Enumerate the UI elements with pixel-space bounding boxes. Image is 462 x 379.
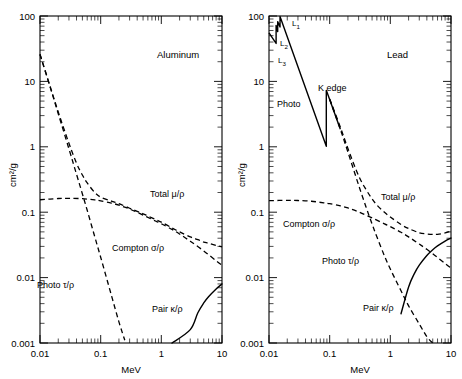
aluminum-photo-label: Photo τ/ρ — [37, 280, 74, 290]
lead-panel-title: Lead — [387, 49, 408, 60]
lead-compton-curve — [330, 99, 451, 235]
aluminum-y-ticklabel-100: 100 — [19, 11, 35, 22]
panel-aluminum: Aluminum Total μ/ρ Compton σ/ρ Photo τ/ρ… — [7, 11, 227, 376]
lead-x-ticklabel-10: 10 — [446, 348, 457, 359]
lead-k-edge-label: K edge — [318, 83, 347, 93]
aluminum-y-ticklabel-0.1: 0.1 — [22, 207, 35, 218]
aluminum-plot-frame — [40, 16, 222, 343]
aluminum-x-minor-ticks — [58, 16, 219, 343]
lead-y-ticklabel-10: 10 — [253, 76, 264, 87]
lead-y-ticklabel-0.001: 0.001 — [240, 338, 264, 349]
lead-x-axis-title: MeV — [350, 364, 370, 375]
lead-l3-edge-label: L3 — [278, 56, 286, 67]
aluminum-y-ticklabel-1: 1 — [30, 141, 35, 152]
aluminum-pair-label: Pair κ/ρ — [152, 304, 183, 314]
aluminum-y-major-ticks — [40, 16, 222, 343]
lead-y-ticklabel-0.1: 0.1 — [251, 207, 264, 218]
lead-x-ticklabel-0.1: 0.1 — [323, 348, 336, 359]
lead-y-ticklabel-100: 100 — [248, 11, 264, 22]
aluminum-pair-curve — [40, 54, 125, 340]
aluminum-y-ticklabel-0.01: 0.01 — [17, 272, 36, 283]
aluminum-x-ticklabel-10: 10 — [217, 348, 228, 359]
lead-x-ticklabel-0.01: 0.01 — [260, 348, 279, 359]
chart-canvas: Aluminum Total μ/ρ Compton σ/ρ Photo τ/ρ… — [0, 0, 462, 379]
aluminum-y-ticklabel-0.001: 0.001 — [11, 338, 35, 349]
attenuation-coefficient-figure: Aluminum Total μ/ρ Compton σ/ρ Photo τ/ρ… — [0, 0, 462, 379]
aluminum-y-ticklabel-10: 10 — [24, 76, 35, 87]
aluminum-compton-label: Compton σ/ρ — [112, 243, 164, 253]
aluminum-compton-curve — [40, 54, 222, 247]
lead-x-minor-ticks — [287, 16, 448, 343]
aluminum-x-major-ticks — [40, 16, 222, 343]
lead-photo-label: Photo τ/ρ — [322, 256, 359, 266]
aluminum-y-minor-ticks — [40, 19, 222, 323]
lead-y-minor-ticks — [269, 19, 451, 323]
aluminum-y-axis-title: cm²/g — [7, 163, 18, 187]
lead-y-ticklabel-0.01: 0.01 — [246, 272, 265, 283]
lead-y-ticklabel-1: 1 — [259, 141, 264, 152]
lead-total-label: Total μ/ρ — [381, 192, 415, 202]
aluminum-x-axis-title: MeV — [121, 364, 141, 375]
lead-pair-label: Pair κ/ρ — [363, 303, 394, 313]
aluminum-x-ticklabel-0.01: 0.01 — [31, 348, 50, 359]
lead-photo-curve-label: Photo — [277, 99, 301, 109]
lead-x-ticklabel-1: 1 — [388, 348, 393, 359]
lead-compton-label: Compton σ/ρ — [283, 219, 335, 229]
aluminum-x-ticklabel-0.1: 0.1 — [94, 348, 107, 359]
aluminum-total-label: Total μ/ρ — [150, 189, 184, 199]
lead-y-axis-title: cm²/g — [236, 163, 247, 187]
lead-l2-edge-label: L2 — [280, 39, 288, 50]
lead-photo-edge-curve — [269, 17, 340, 147]
aluminum-panel-title: Aluminum — [157, 49, 199, 60]
aluminum-x-ticklabel-1: 1 — [159, 348, 164, 359]
lead-l1-edge-label: L1 — [292, 19, 300, 30]
panel-lead: Lead Total μ/ρ Compton σ/ρ Photo Photo τ… — [236, 11, 456, 376]
